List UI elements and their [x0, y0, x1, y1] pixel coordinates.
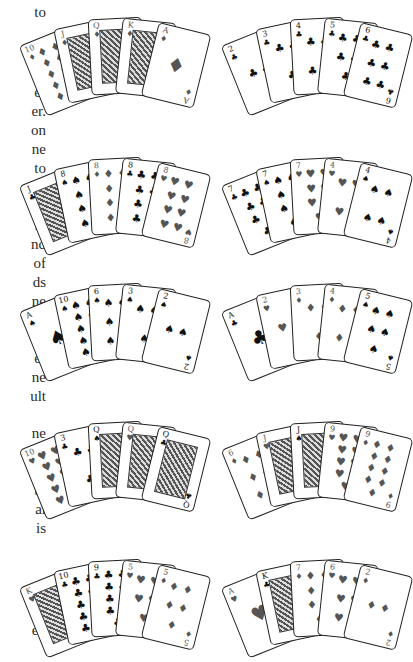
- card-rank: 7: [296, 161, 302, 170]
- suit-icon: ♥: [333, 593, 348, 606]
- card-rank: 6: [385, 95, 392, 105]
- card-rank: 5: [183, 637, 190, 647]
- suit-icon: ♦: [364, 486, 380, 501]
- suit-icon: ♠: [373, 214, 389, 229]
- suit-icon: ♣: [305, 65, 320, 78]
- suit-icon: ♠: [101, 297, 116, 310]
- card-rank: 4: [296, 21, 302, 30]
- hand-royal-flush: 10♦10♦♦♦♦♦♦♦♦♦♦♦J♦J♦Q♦Q♦K♦K♦A♦A♦♦: [40, 6, 200, 126]
- suit-icon: ♦: [103, 197, 118, 210]
- hand-full-house: 7♣7♣♣♣♣♣♣♣♣7♠7♠♠♠♠♠♠♠♠7♥7♥♥♥♥♥♥♥♥4♥4♥♥♥♥…: [242, 146, 402, 266]
- suit-icon: ♦: [175, 602, 191, 617]
- hand-high-card: A♥A♥♥K♣K♣7♦7♦♦♦♦♦♦♦♦6♥6♥♥♥♥♥♥♥2♦2♦♦♦: [242, 548, 402, 662]
- card-rank: A: [182, 95, 190, 105]
- suit-icon: ♦: [304, 302, 319, 315]
- hand-one-pair: K♥K♥10♣10♣♣♣♣♣♣♣♣♣♣♣9♣9♣♣♣♣♣♣♣♣♣♣5♥5♥♥♥♥…: [40, 548, 200, 662]
- suit-icon: ♦: [305, 599, 320, 612]
- suit-icon: ♣: [129, 212, 144, 225]
- suit-icon: ♠: [175, 326, 191, 341]
- card-rank: 8: [183, 235, 190, 245]
- suit-icon: ♦: [304, 585, 319, 598]
- suit-icon: ♣: [304, 36, 319, 49]
- suit-icon: ♠: [380, 185, 396, 200]
- suit-icon: ♠: [102, 316, 117, 329]
- face-card-portrait: [154, 439, 198, 499]
- suit-icon: ♠: [381, 307, 397, 322]
- suit-icon: ♦: [179, 583, 195, 598]
- card-index: 3♦: [294, 288, 304, 305]
- suit-icon: ♦: [335, 302, 350, 315]
- card-index: 8♦: [92, 162, 102, 179]
- suit-icon: ♦: [101, 168, 116, 181]
- suit-icon: ♣: [335, 32, 350, 45]
- suit-icon: ♥: [303, 168, 318, 181]
- suit-icon: ♠: [377, 326, 393, 341]
- suit-icon: ♦: [102, 183, 117, 196]
- suit-icon: ♥: [173, 207, 189, 222]
- card-index: 4♣: [294, 22, 304, 39]
- suit-icon: ♦: [303, 570, 318, 583]
- suit-icon: ♣: [381, 41, 397, 56]
- suit-icon: ♣: [294, 30, 303, 39]
- suit-icon: ♣: [132, 184, 147, 197]
- suit-icon: ♥: [176, 192, 192, 207]
- hand-flush: A♠A♠♠10♠10♠♠♠♠♠♠♠♠♠♠♠6♠6♠♠♠♠♠♠♠3♠3♠♠♠♠2♠…: [40, 272, 200, 392]
- card-rank: 9: [94, 563, 100, 572]
- suit-icon: ♠: [365, 343, 381, 358]
- card-rank: 2: [183, 361, 190, 371]
- suit-icon: ♥: [335, 574, 350, 587]
- card-index: 7♥: [294, 162, 304, 179]
- suit-icon: ♦: [332, 331, 347, 344]
- suit-icon: ♥: [169, 221, 185, 236]
- card-rank: 7: [296, 563, 302, 572]
- suit-icon: ♥: [305, 197, 320, 210]
- suit-icon: ♦: [160, 52, 192, 78]
- suit-icon: ♦: [377, 602, 393, 617]
- card-rank: Q: [182, 499, 191, 509]
- suit-icon: ♥: [331, 612, 346, 625]
- suit-icon: ♣: [130, 198, 145, 211]
- suit-icon: ♠: [133, 302, 148, 315]
- hand-three-of-a-kind: 10♥10♥♥♥♥♥♥♥♥♥♥♥3♣3♣♣♣♣Q♠Q♠Q♥Q♥Q♣Q♣: [40, 410, 200, 530]
- card-rank: Q: [93, 425, 100, 434]
- suit-icon: ♥: [133, 574, 148, 587]
- suit-icon: ♥: [332, 205, 347, 218]
- card-index: 6♠: [92, 288, 102, 305]
- card-index: 9♣: [92, 564, 102, 581]
- hand-two-pair: 6♦6♦♦♦♦♦♦♦J♥J♥J♠J♠9♥9♥♥♥♥♥♥♥♥♥♥9♦9♦♦♦♦♦♦…: [242, 410, 402, 530]
- card-rank: J: [297, 425, 301, 434]
- card-rank: Q: [93, 21, 100, 30]
- hand-four-of-a-kind: J♣J♣8♠8♠♠♠♠♠♠♠♠♠8♦8♦♦♦♦♦♦♦♦♦8♣8♣♣♣♣♣♣♣♣♣…: [40, 146, 200, 266]
- hand-straight-flush: 2♣2♣♣♣3♣3♣♣♣♣4♣4♣♣♣♣♣5♣5♣♣♣♣♣♣6♣6♣♣♣♣♣♣♣: [242, 6, 402, 126]
- suit-icon: ♦: [294, 296, 303, 305]
- suit-icon: ♥: [294, 170, 303, 179]
- card-rank: 6: [94, 287, 100, 296]
- card-rank: 8: [94, 161, 100, 170]
- suit-icon: ♦: [163, 619, 179, 634]
- suit-icon: ♣: [377, 60, 393, 75]
- suit-icon: ♣: [133, 169, 148, 182]
- card-index: 7♦: [294, 564, 304, 581]
- card-rank: 9: [385, 499, 392, 509]
- suit-icon: ♥: [335, 176, 350, 189]
- suit-icon: ♦: [92, 170, 101, 179]
- suit-icon: ♦: [294, 572, 303, 581]
- card-rank: 2: [385, 637, 392, 647]
- card-rank: 4: [385, 235, 392, 245]
- card-rank: 5: [385, 361, 392, 371]
- suit-icon: ♣: [333, 51, 348, 64]
- suit-icon: ♣: [92, 572, 101, 581]
- suit-icon: ♣: [372, 78, 388, 93]
- suit-icon: ♥: [304, 183, 319, 196]
- hand-straight: A♣A♣♣2♥2♥♥♥3♦3♦♦♦♦4♦4♦♦♦♦♦5♠5♠♠♠♠♠♠: [242, 272, 402, 392]
- card-rank: 3: [296, 287, 302, 296]
- suit-icon: ♥: [131, 593, 146, 606]
- suit-icon: ♠: [92, 296, 101, 305]
- suit-icon: ♥: [180, 178, 196, 193]
